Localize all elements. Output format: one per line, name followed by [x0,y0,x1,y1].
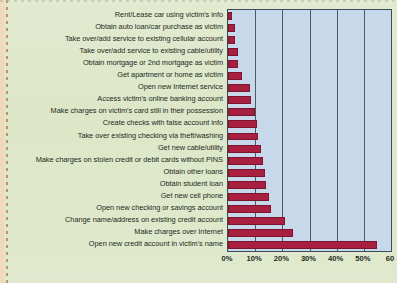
category-label: Obtain auto loan/car purchase as victim [95,23,223,31]
category-label: Create checks with false account info [103,119,223,127]
bar [228,36,235,44]
x-tick-label: 0% [222,254,233,263]
x-tick-label: 60 [386,254,394,263]
category-label: Rent/Lease car using victim's info [115,11,223,19]
bar [228,12,232,20]
bar [228,60,238,68]
bar [228,193,269,201]
x-axis-tick-labels: 0%10%20%30%40%50%60 [227,254,397,270]
category-label: Take over/add service to existing cellul… [65,35,223,43]
bar [228,96,251,104]
bar [228,145,261,153]
x-tick-label: 30% [301,254,316,263]
bar [228,120,257,128]
category-label: Get new cable/utility [158,144,223,152]
category-label: Make charges on victim's card still in t… [51,107,223,115]
bar [228,72,242,80]
bar [228,229,293,237]
x-tick-label: 20% [274,254,289,263]
category-label: Change name/address on existing credit a… [65,216,223,224]
bar [228,181,266,189]
plot-area [227,9,392,252]
bar [228,24,235,32]
bar [228,205,271,213]
category-label: Open new checking or savings account [96,204,223,212]
bar [228,217,285,225]
category-label: Get apartment or home as victim [117,71,223,79]
category-label: Make charges on stolen credit or debit c… [36,156,223,164]
category-label: Get new cell phone [161,192,223,200]
category-label: Take over/add service to existing cable/… [80,47,223,55]
x-tick-label: 50% [355,254,370,263]
bar [228,157,263,165]
bar [228,133,258,141]
bar [228,169,265,177]
category-label: Open new credit account in victim's name [89,240,223,248]
category-label: Make charges over Internet [134,228,223,236]
bar [228,241,377,249]
category-label: Obtain mortgage or 2nd mortgage as victi… [83,59,223,67]
page-top-dashes [0,0,394,2]
category-label-list: Rent/Lease car using victim's infoObtain… [8,9,225,252]
x-tick-label: 10% [247,254,262,263]
category-label: Take over existing checking via theft/wa… [78,132,223,140]
category-label: Obtain other loans [164,168,224,176]
bar [228,48,238,56]
bar [228,108,255,116]
category-label: Open new Internet service [138,83,223,91]
category-label: Access victim's online banking account [97,95,223,103]
bar [228,84,250,92]
category-label: Obtain student loan [160,180,223,188]
bar-series [228,10,391,251]
x-tick-label: 40% [328,254,343,263]
